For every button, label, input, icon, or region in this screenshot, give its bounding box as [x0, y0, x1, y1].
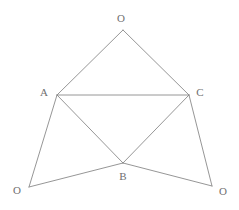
edge-C-B	[123, 95, 189, 163]
vertex-label-O_top: O	[117, 13, 125, 24]
vertex-label-B: B	[119, 171, 127, 182]
edge-A-B	[57, 95, 123, 163]
edge-Otop-A	[57, 30, 123, 95]
edge-Obl-B	[29, 163, 123, 187]
vertex-label-A: A	[40, 87, 48, 98]
edges-group	[29, 30, 212, 187]
geometry-figure: OACBOO	[0, 0, 239, 210]
edge-B-Obr	[123, 163, 212, 186]
edge-C-Obr	[189, 95, 212, 186]
vertex-label-C: C	[196, 87, 204, 98]
edge-A-Obl	[29, 95, 57, 187]
vertex-label-O_bottom_left: O	[13, 185, 21, 196]
edge-Otop-C	[123, 30, 189, 95]
vertex-label-O_bottom_right: O	[219, 186, 227, 197]
